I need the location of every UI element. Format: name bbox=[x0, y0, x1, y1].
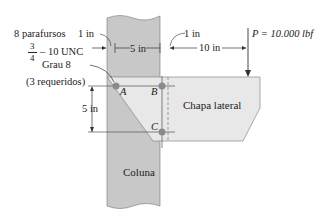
bolt-spec-frac-num: 3 bbox=[30, 42, 35, 51]
point-c-label: C bbox=[151, 122, 158, 133]
dim-left-gap: 1 in bbox=[78, 29, 94, 40]
bolt-b bbox=[159, 83, 166, 90]
bolt-spec-line2: – 10 UNC bbox=[40, 47, 83, 58]
bolt-a bbox=[113, 83, 120, 90]
point-a-label: A bbox=[120, 87, 126, 98]
load-label: P = 10.000 lbf bbox=[252, 29, 313, 40]
load-text: P = 10.000 lbf bbox=[252, 28, 313, 39]
column-label: Coluna bbox=[123, 167, 155, 178]
point-b-label: B bbox=[151, 87, 157, 98]
dim-bolt-spacing: 5 in bbox=[130, 44, 146, 55]
bolt-spec-line4: (3 requeridos) bbox=[26, 77, 85, 88]
bolt-spec-line1: 8 parafursos bbox=[14, 29, 66, 40]
dim-load-offset: 10 in bbox=[197, 43, 222, 54]
bolt-spec-line3: Grau 8 bbox=[42, 60, 71, 71]
dim-right-gap: 1 in bbox=[184, 29, 200, 40]
plate-label: Chapa lateral bbox=[183, 100, 241, 111]
bolt-c bbox=[159, 129, 166, 136]
dim-vertical: 5 in bbox=[82, 104, 98, 115]
bolt-spec-frac-den: 4 bbox=[30, 54, 35, 63]
